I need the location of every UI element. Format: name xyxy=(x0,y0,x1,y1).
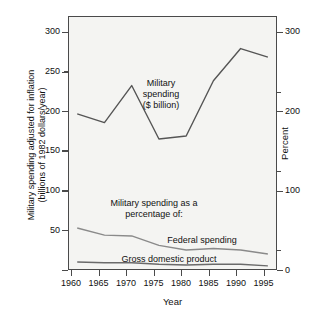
y2tick-mark-250 xyxy=(277,92,281,93)
ytick-mark-250 xyxy=(62,72,68,73)
military-spending-label-line2: spending xyxy=(143,89,180,99)
xtick-mark-1990 xyxy=(236,270,237,276)
xtick-mark-1970 xyxy=(126,270,127,276)
y2tick-label-100: 100 xyxy=(285,186,311,195)
xtick-mark-1995 xyxy=(264,270,265,276)
percentage-of-label: Military spending as a percentage of: xyxy=(90,198,218,220)
y2tick-mark-300 xyxy=(277,32,283,33)
military-spending-label-line3: ($ billion) xyxy=(143,100,180,110)
plot-lines-svg xyxy=(69,17,276,269)
chart-figure: 300 250 200 150 100 50 300 200 100 0 196… xyxy=(0,0,315,316)
gross-domestic-product-label: Gross domestic product xyxy=(106,254,232,265)
y2tick-mark-50 xyxy=(277,250,281,251)
y2-axis-title: Percent xyxy=(279,114,290,174)
y-axis-title: Military spending adjusted for inflation… xyxy=(26,40,48,250)
ytick-mark-0-left xyxy=(62,270,68,271)
xtick-mark-1980 xyxy=(181,270,182,276)
y2tick-mark-100 xyxy=(277,191,283,192)
ytick-mark-100 xyxy=(62,191,68,192)
xtick-mark-1975 xyxy=(154,270,155,276)
ytick-mark-50 xyxy=(62,230,68,231)
xtick-mark-1965 xyxy=(99,270,100,276)
military-spending-label: Military spending ($ billion) xyxy=(128,78,194,111)
x-axis-title: Year xyxy=(68,296,277,307)
y2tick-mark-0 xyxy=(277,270,283,271)
y2tick-label-0: 0 xyxy=(285,266,311,275)
y2tick-label-300: 300 xyxy=(285,27,311,36)
ytick-mark-150 xyxy=(62,151,68,152)
percentage-of-label-line2: percentage of: xyxy=(125,209,183,219)
federal-spending-label: Federal spending xyxy=(158,235,246,246)
military-spending-label-line1: Military xyxy=(147,78,176,88)
xtick-label-1995: 1995 xyxy=(247,279,281,288)
y-axis-title-line1: Military spending adjusted for inflation xyxy=(26,70,36,221)
y2tick-mark-200 xyxy=(277,111,283,112)
percentage-of-label-line1: Military spending as a xyxy=(110,198,197,208)
ytick-label-300: 300 xyxy=(34,27,60,36)
ytick-mark-300b xyxy=(62,32,68,33)
y-axis-title-line2: (billions of 1982 dollars/year) xyxy=(37,87,47,202)
xtick-mark-1960 xyxy=(71,270,72,276)
ytick-mark-200 xyxy=(62,111,68,112)
plot-area xyxy=(68,16,277,270)
xtick-mark-1985 xyxy=(209,270,210,276)
